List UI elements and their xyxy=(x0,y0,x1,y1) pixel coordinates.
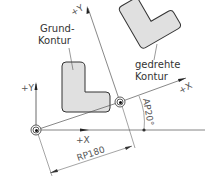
rotated-y-axis xyxy=(88,8,120,102)
radius-extension-2 xyxy=(122,106,135,148)
rotated-x-label: +X xyxy=(177,80,194,96)
rotated-contour-leader xyxy=(154,44,157,60)
base-x-arrow-icon xyxy=(80,129,89,132)
base-origin-icon xyxy=(31,125,41,135)
base-contour-label-1: Grund- xyxy=(40,23,75,34)
dim-arrow-left-icon xyxy=(50,169,58,173)
radius-extension-1 xyxy=(38,134,52,176)
dim-arrow-right-icon xyxy=(125,146,132,150)
angle-end-dot xyxy=(142,128,145,131)
rotated-contour-shape xyxy=(118,0,182,50)
base-y-label: +Y xyxy=(21,83,35,93)
base-contour-shape xyxy=(62,62,110,112)
rotated-x-arrow-icon xyxy=(178,78,186,82)
base-contour-label-2: Kontur xyxy=(38,35,72,46)
radius-dimension-label: RP180 xyxy=(76,144,107,163)
base-y-arrow-icon xyxy=(35,82,38,90)
base-x-label: +X xyxy=(76,135,90,145)
rotated-contour-label-2: Kontur xyxy=(135,71,169,82)
rotated-origin-icon xyxy=(115,97,125,107)
rotated-contour-label-1: gedrehte xyxy=(135,59,180,70)
angle-dimension-label: AP20° xyxy=(141,98,156,127)
rotated-y-label: +Y xyxy=(69,2,86,17)
polar-coordinate-diagram: RP180 AP20° Grund- Kontur gedrehte Kontu… xyxy=(0,0,207,190)
